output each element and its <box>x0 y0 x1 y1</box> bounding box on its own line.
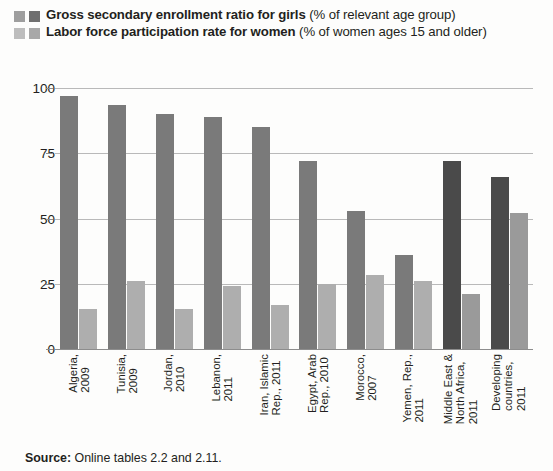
x-axis-label-line: Egypt, Arab <box>305 354 317 413</box>
legend-label-enrollment: Gross secondary enrollment ratio for gir… <box>46 7 456 23</box>
x-axis-label-line: 2009 <box>127 354 139 393</box>
y-tick-mark-100 <box>46 88 53 89</box>
x-label-cell: Tunisia,2009 <box>103 352 151 457</box>
bar-enrollment <box>156 114 174 349</box>
y-tick-mark-50 <box>46 219 53 220</box>
x-axis-label: Lebanon,2011 <box>210 354 235 402</box>
x-axis-label: Jordan,2010 <box>162 354 187 392</box>
bar-group <box>390 88 438 349</box>
bar-group <box>103 88 151 349</box>
x-axis-label-line: North Africa, <box>455 354 467 424</box>
x-axis-label-line: Yemen, Rep., <box>401 354 413 423</box>
bar-labor <box>175 309 193 349</box>
chart-legend: Gross secondary enrollment ratio for gir… <box>14 7 549 40</box>
x-axis-label: Morocco,2007 <box>353 354 378 401</box>
bar-group <box>198 88 246 349</box>
x-label-cell: Jordan,2010 <box>151 352 199 457</box>
y-axis: 0255075100 <box>0 88 55 349</box>
legend-swatch-dark-enrollment <box>29 11 40 22</box>
y-tick-mark-0 <box>46 349 53 350</box>
bar-groups <box>55 88 533 349</box>
x-axis-label: Yemen, Rep.,2011 <box>401 354 426 423</box>
x-axis-label-line: 2011 <box>413 354 425 423</box>
x-label-cell: Egypt, ArabRep., 2010 <box>294 352 342 457</box>
x-axis-label-line: Middle East & <box>443 354 455 424</box>
x-axis-label: Middle East &North Africa,2011 <box>443 354 480 424</box>
x-label-cell: Lebanon,2011 <box>198 352 246 457</box>
bar-labor <box>462 294 480 349</box>
x-axis-label-line: Tunisia, <box>114 354 126 393</box>
bar-group <box>485 88 533 349</box>
legend-label-enrollment-bold: Gross secondary enrollment ratio for gir… <box>46 7 306 22</box>
x-axis-label-line: Rep., 2010 <box>318 354 330 413</box>
legend-swatch-dark-labor <box>29 28 40 39</box>
bar-enrollment <box>491 177 509 349</box>
axis-baseline <box>55 349 533 350</box>
bar-group <box>55 88 103 349</box>
x-axis-label-line: countries, <box>503 354 515 411</box>
y-tick-mark-25 <box>46 284 53 285</box>
bar-labor <box>366 275 384 349</box>
bar-group <box>294 88 342 349</box>
x-axis-label-line: Algeria, <box>66 354 78 393</box>
legend-item-enrollment: Gross secondary enrollment ratio for gir… <box>14 7 549 23</box>
bar-labor <box>127 281 145 349</box>
source-note: Source: Online tables 2.2 and 2.11. <box>25 451 222 465</box>
x-label-cell: Iran, IslamicRep., 2011 <box>246 352 294 457</box>
x-label-cell: Algeria,2009 <box>55 352 103 457</box>
bar-enrollment <box>60 96 78 349</box>
legend-label-labor-bold: Labor force participation rate for women <box>46 24 296 39</box>
legend-item-labor: Labor force participation rate for women… <box>14 24 549 40</box>
bar-group <box>437 88 485 349</box>
y-tick-mark-75 <box>46 153 53 154</box>
x-axis-label: Tunisia,2009 <box>114 354 139 393</box>
bar-labor <box>223 286 241 349</box>
x-label-cell: Yemen, Rep.,2011 <box>390 352 438 457</box>
x-axis-label: Iran, IslamicRep., 2011 <box>258 354 283 415</box>
x-label-cell: Developingcountries,2011 <box>485 352 533 457</box>
x-label-cell: Morocco,2007 <box>342 352 390 457</box>
x-axis-label-line: 2011 <box>222 354 234 402</box>
bar-enrollment <box>108 105 126 349</box>
legend-swatch-group-enrollment <box>14 7 40 22</box>
source-text: Online tables 2.2 and 2.11. <box>71 451 222 465</box>
bar-enrollment <box>347 211 365 349</box>
x-axis-labels: Algeria,2009Tunisia,2009Jordan,2010Leban… <box>55 352 533 457</box>
x-axis-label-line: Rep., 2011 <box>270 354 282 415</box>
x-axis-label-line: Morocco, <box>353 354 365 401</box>
bar-enrollment <box>204 117 222 349</box>
bar-labor <box>271 305 289 349</box>
bar-labor <box>318 284 336 349</box>
legend-swatch-light-enrollment <box>14 11 25 22</box>
bar-enrollment <box>443 161 461 349</box>
legend-swatch-light-labor <box>14 28 25 39</box>
bar-enrollment <box>252 127 270 349</box>
x-axis-label-line: 2011 <box>515 354 527 411</box>
legend-label-labor: Labor force participation rate for women… <box>46 24 487 40</box>
x-axis-label: Algeria,2009 <box>66 354 91 393</box>
legend-label-enrollment-normal: (% of relevant age group) <box>306 7 456 22</box>
bar-group <box>342 88 390 349</box>
bar-labor <box>510 213 528 349</box>
bar-group <box>151 88 199 349</box>
x-axis-label-line: Iran, Islamic <box>258 354 270 415</box>
bar-labor <box>79 309 97 349</box>
x-axis-label: Developingcountries,2011 <box>490 354 527 411</box>
bar-enrollment <box>395 255 413 349</box>
bar-labor <box>414 281 432 349</box>
x-axis-label-line: 2007 <box>366 354 378 401</box>
legend-swatch-group-labor <box>14 24 40 39</box>
x-axis-label-line: Lebanon, <box>210 354 222 402</box>
legend-label-labor-normal: (% of women ages 15 and older) <box>296 24 487 39</box>
x-axis-label-line: Jordan, <box>162 354 174 392</box>
x-axis-label-line: 2010 <box>174 354 186 392</box>
x-axis-label-line: 2011 <box>467 354 479 424</box>
bar-enrollment <box>299 161 317 349</box>
x-axis-label: Egypt, ArabRep., 2010 <box>305 354 330 413</box>
source-label: Source: <box>25 451 71 465</box>
x-axis-label-line: Developing <box>490 354 502 411</box>
plot-area <box>55 88 533 349</box>
bar-group <box>246 88 294 349</box>
x-label-cell: Middle East &North Africa,2011 <box>437 352 485 457</box>
x-axis-label-line: 2009 <box>79 354 91 393</box>
